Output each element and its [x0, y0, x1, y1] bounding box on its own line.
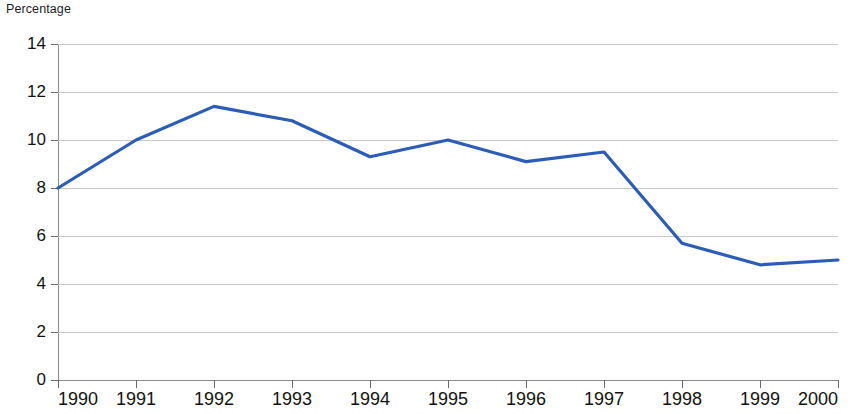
x-axis-label-1994: 1994 — [350, 389, 390, 409]
x-axis-label-1999: 1999 — [740, 389, 780, 409]
y-axis-label-2: 2 — [37, 323, 46, 340]
y-tick-14 — [51, 44, 58, 45]
x-tick-1998 — [682, 380, 683, 388]
x-axis-label-1993: 1993 — [272, 389, 312, 409]
x-tick-1997 — [604, 380, 605, 388]
y-tick-0 — [51, 380, 58, 381]
x-tick-1996 — [526, 380, 527, 388]
y-axis-label-8: 8 — [37, 179, 46, 196]
x-axis-label-1992: 1992 — [194, 389, 234, 409]
x-axis-label-2000: 2000 — [798, 389, 838, 409]
plot-area — [58, 44, 838, 380]
x-tick-1990 — [58, 380, 59, 388]
x-axis-label-1998: 1998 — [662, 389, 702, 409]
y-axis-title: Percentage — [6, 2, 71, 16]
x-axis-label-1991: 1991 — [116, 389, 156, 409]
x-axis-label-1995: 1995 — [428, 389, 468, 409]
y-axis-label-0: 0 — [37, 371, 46, 388]
y-tick-2 — [51, 332, 58, 333]
y-axis-label-4: 4 — [37, 275, 46, 292]
x-tick-1994 — [370, 380, 371, 388]
x-tick-1993 — [292, 380, 293, 388]
x-tick-1995 — [448, 380, 449, 388]
x-tick-1999 — [760, 380, 761, 388]
x-axis-label-1996: 1996 — [506, 389, 546, 409]
y-axis-label-12: 12 — [27, 83, 46, 100]
y-tick-4 — [51, 284, 58, 285]
x-axis-label-1997: 1997 — [584, 389, 624, 409]
x-tick-1991 — [136, 380, 137, 388]
series-line-percentage — [58, 44, 838, 380]
y-axis-label-6: 6 — [37, 227, 46, 244]
y-axis-label-10: 10 — [27, 131, 46, 148]
x-tick-2000 — [838, 380, 839, 388]
x-tick-1992 — [214, 380, 215, 388]
x-axis-label-1990: 1990 — [58, 389, 98, 409]
y-tick-12 — [51, 92, 58, 93]
line-chart: Percentage 02468101214 19901991199219931… — [0, 0, 856, 414]
y-tick-10 — [51, 140, 58, 141]
y-tick-6 — [51, 236, 58, 237]
y-axis-label-14: 14 — [27, 35, 46, 52]
